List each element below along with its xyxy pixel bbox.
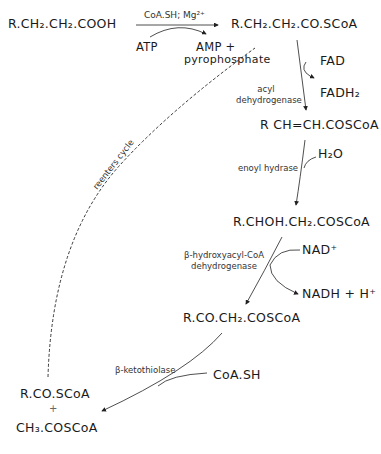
product-acetyl-coa: CH₃.COSCoA <box>16 420 98 435</box>
atp-label: ATP <box>136 40 158 54</box>
ketoacyl-coa: R.CO.CH₂.COSCoA <box>183 310 300 325</box>
ketothiolase-label: β-ketothiolase <box>115 365 175 376</box>
fad-label: FAD <box>320 53 345 68</box>
activation-cofactors: CoA.SH; Mg²⁺ <box>144 10 205 20</box>
plus-sign: + <box>49 403 58 414</box>
enoyl-coa: R CH=CH.COSCoA <box>260 117 379 132</box>
reenters-cycle-label: reenters cycle <box>91 138 136 192</box>
hydroxyacyl-coa: R.CHOH.CH₂.COSCoA <box>233 214 370 229</box>
enoyl-hydrase-label: enoyl hydrase <box>238 163 298 174</box>
product-acyl-coa: R.CO.SCoA <box>20 386 90 401</box>
acyl-dehydrogenase-label: acyl dehydrogenase <box>236 84 296 106</box>
acyl-coa: R.CH₂.CH₂.CO.SCoA <box>231 16 357 31</box>
amp-label: AMP + <box>196 40 236 54</box>
nad-label: NAD⁺ <box>302 242 337 257</box>
figure-caption-clipped <box>112 447 272 454</box>
h2o-label: H₂O <box>318 146 343 161</box>
hydroxyacyl-dehydrogenase-label: β-hydroxyacyl-CoA dehydrogenase <box>182 250 266 272</box>
fadh2-label: FADH₂ <box>320 85 360 100</box>
pyrophosphate-label: pyrophosphate <box>184 53 271 66</box>
fatty-acid: R.CH₂.CH₂.COOH <box>8 16 116 31</box>
nadh-label: NADH + H⁺ <box>302 286 376 301</box>
coash-label: CoA.SH <box>213 367 261 382</box>
